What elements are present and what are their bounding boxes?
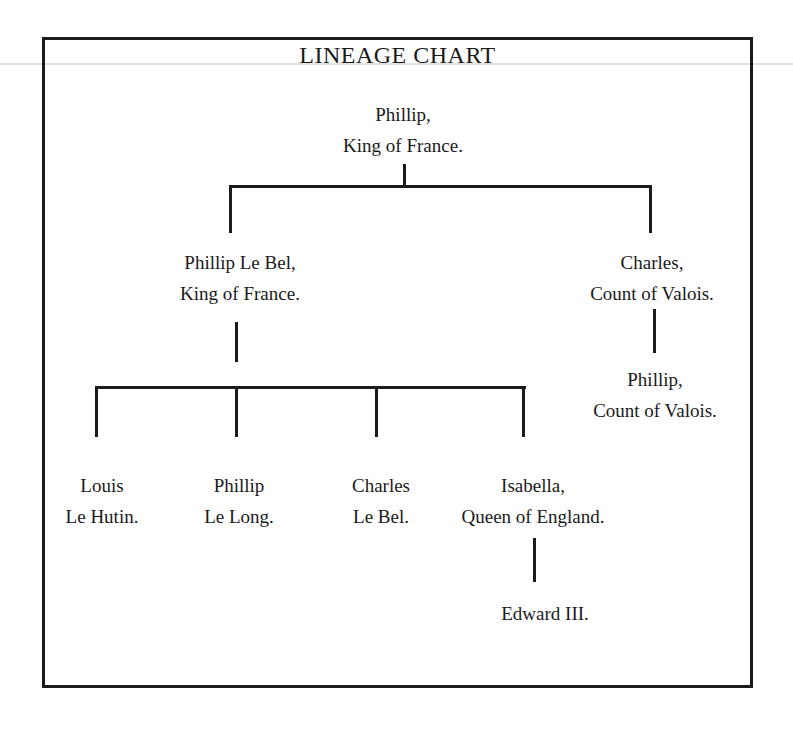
node-line: Count of Valois. bbox=[590, 278, 714, 309]
node-phillip-le-long: Phillip Le Long. bbox=[204, 470, 274, 532]
node-line: Louis bbox=[66, 470, 139, 501]
node-phillip-count-of-valois: Phillip, Count of Valois. bbox=[593, 364, 717, 426]
connector-gen2-bar bbox=[95, 386, 526, 389]
node-line: Phillip, bbox=[593, 364, 717, 395]
connector-gen2-drop-louis bbox=[95, 386, 98, 437]
node-line: Charles, bbox=[590, 247, 714, 278]
connector-gen1-left-drop bbox=[229, 185, 232, 233]
connector-gen1-bar bbox=[229, 185, 652, 188]
node-line: Queen of England. bbox=[462, 501, 605, 532]
scanned-lineage-page: LINEAGE CHART Phillip, King of France. P… bbox=[0, 0, 793, 732]
node-line: Phillip, bbox=[343, 99, 463, 130]
connector-gen2-drop-charles-le-bel bbox=[375, 386, 378, 437]
connector-phillip-le-bel-stem bbox=[235, 322, 238, 362]
connector-charles-valois-stem bbox=[653, 309, 656, 353]
chart-title: LINEAGE CHART bbox=[42, 42, 753, 69]
node-charles-count-of-valois: Charles, Count of Valois. bbox=[590, 247, 714, 309]
connector-gen2-drop-isabella bbox=[522, 386, 525, 437]
node-phillip-le-bel: Phillip Le Bel, King of France. bbox=[180, 247, 300, 309]
node-line: Charles bbox=[352, 470, 410, 501]
node-charles-le-bel: Charles Le Bel. bbox=[352, 470, 410, 532]
node-line: Isabella, bbox=[462, 470, 605, 501]
node-isabella-queen-of-england: Isabella, Queen of England. bbox=[462, 470, 605, 532]
node-line: Count of Valois. bbox=[593, 395, 717, 426]
node-phillip-king-of-france: Phillip, King of France. bbox=[343, 99, 463, 161]
node-line: Le Bel. bbox=[352, 501, 410, 532]
node-line: Le Long. bbox=[204, 501, 274, 532]
connector-isabella-stem bbox=[533, 538, 536, 582]
node-louis-le-hutin: Louis Le Hutin. bbox=[66, 470, 139, 532]
node-line: King of France. bbox=[343, 130, 463, 161]
node-line: Le Hutin. bbox=[66, 501, 139, 532]
node-line: Edward III. bbox=[501, 598, 589, 629]
node-line: King of France. bbox=[180, 278, 300, 309]
connector-gen1-right-drop bbox=[649, 185, 652, 233]
connector-root-stem bbox=[403, 164, 406, 187]
node-line: Phillip Le Bel, bbox=[180, 247, 300, 278]
node-line: Phillip bbox=[204, 470, 274, 501]
node-edward-iii: Edward III. bbox=[501, 598, 589, 629]
connector-gen2-drop-phillip-le-long bbox=[235, 386, 238, 437]
